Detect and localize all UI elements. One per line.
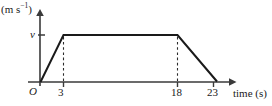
velocity-curve [41, 35, 218, 82]
y-tick-label-v: v [30, 29, 35, 40]
x-tick-label-18: 18 [171, 87, 182, 98]
velocity-time-graph: (m s−1) v O 3 18 23 time (s) [0, 0, 272, 106]
y-axis [36, 9, 44, 86]
y-axis-unit-base: (m s [1, 3, 20, 15]
chart-canvas [0, 0, 272, 106]
y-axis-arrowhead [36, 9, 44, 16]
x-axis-arrowhead [229, 78, 237, 86]
x-axis-label: time (s) [233, 88, 267, 99]
x-axis [28, 78, 237, 86]
x-tick-label-23: 23 [207, 87, 218, 98]
y-axis-unit-label: (m s−1) [1, 4, 32, 15]
origin-label: O [29, 86, 37, 97]
x-tick-label-3: 3 [58, 87, 64, 98]
y-axis-unit-tail: ) [28, 3, 32, 15]
